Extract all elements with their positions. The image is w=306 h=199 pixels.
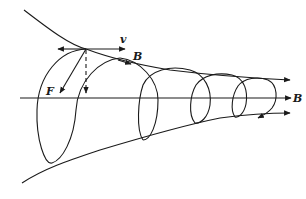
force-label: F <box>46 86 54 97</box>
spiral-loop-1 <box>37 49 120 163</box>
spiral-loop-2 <box>138 68 190 140</box>
field-line-label: B <box>133 51 142 62</box>
velocity-label: v <box>120 34 126 45</box>
lower-field-line <box>22 113 290 183</box>
diagram-drawing <box>0 0 306 199</box>
spiral-loop-3 <box>232 75 268 117</box>
diagram-canvas: v B B F <box>0 0 306 199</box>
spiral-loop-2-back <box>190 70 232 123</box>
axis-field-label: B <box>293 93 302 104</box>
spiral-loop-4 <box>258 80 276 118</box>
upper-field-line <box>24 10 290 80</box>
